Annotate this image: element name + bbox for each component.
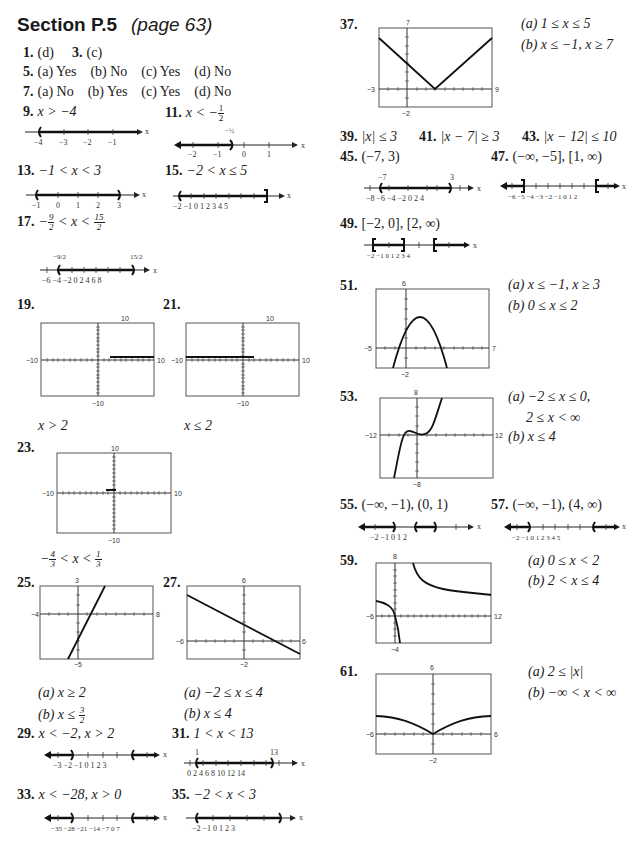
svg-text:−2: −2 — [402, 110, 410, 117]
svg-text:−1: −1 — [108, 138, 117, 147]
svg-text:x: x — [287, 191, 291, 200]
svg-text:x: x — [145, 127, 149, 136]
svg-text:x: x — [477, 522, 481, 531]
svg-text:−2: −2 — [188, 150, 197, 159]
svg-text:−1: −1 — [213, 150, 222, 159]
answer-61b: (b) −∞ < x < ∞ — [528, 685, 616, 701]
svg-text:−10: −10 — [42, 490, 54, 497]
section-name: Section P.5 — [17, 14, 117, 35]
svg-text:6: 6 — [402, 280, 406, 287]
svg-text:−2 −1 0 1 2 3 4: −2 −1 0 1 2 3 4 — [367, 252, 410, 260]
svg-text:9: 9 — [495, 86, 499, 93]
answer-45: 45.(−7, 3) — [340, 149, 400, 165]
svg-text:−5: −5 — [74, 661, 82, 668]
number-line-55: x −2 −1 0 1 2 — [358, 519, 488, 543]
answer-27b: (b) x ≤ 4 — [184, 706, 232, 722]
svg-text:x: x — [301, 141, 305, 150]
number-line-57: x −2 −1 0 1 2 3 4 5 — [504, 519, 627, 543]
answer-55: 55.(−∞, −1), (0, 1) — [340, 497, 448, 513]
svg-text:10: 10 — [111, 445, 119, 452]
graph-23: 10 −10 10 −10 — [44, 445, 184, 545]
svg-text:−6 −5 −4 −3 −2 −1 0 1 2: −6 −5 −4 −3 −2 −1 0 1 2 — [508, 193, 578, 201]
number-line-11: −½ x −2−101 — [172, 125, 307, 159]
svg-text:−4: −4 — [31, 611, 39, 618]
svg-text:−½: −½ — [225, 127, 234, 135]
svg-text:−8 −6 −4 −2 0 2: −8 −6 −4 −2 0 2 4 — [366, 194, 424, 203]
svg-text:−10: −10 — [26, 357, 38, 364]
answer-27a: (a) −2 ≤ x ≤ 4 — [184, 685, 263, 701]
svg-text:10: 10 — [121, 315, 129, 322]
number-line-15: x −2 −1 0 1 2 3 4 5 — [173, 188, 303, 210]
answer-53a: (a) −2 ≤ x ≤ 0, — [508, 389, 590, 405]
svg-text:8: 8 — [393, 553, 397, 560]
answer-51a: (a) x ≤ −1, x ≥ 3 — [508, 277, 600, 293]
caption-19: x > 2 — [38, 418, 68, 434]
answer-5: 5.(a) Yes(b) No(c) Yes(d) No — [23, 64, 231, 80]
svg-text:0 2 4 6 8 10 12 14: 0 2 4 6 8 10 12 14 — [187, 769, 245, 778]
answer-53a-cont: 2 ≤ x < ∞ — [526, 410, 580, 426]
svg-text:3: 3 — [117, 201, 121, 210]
svg-text:1: 1 — [76, 201, 80, 210]
answer-29: 29.x < −2, x > 2 — [17, 726, 114, 742]
answer-9: 9.x > −4 — [23, 104, 77, 120]
number-line-29: x −3 −2 −1 0 1 2 3 — [44, 748, 174, 770]
svg-text:10: 10 — [302, 357, 310, 364]
svg-text:6: 6 — [302, 638, 306, 645]
answer-35: 35.−2 < x < 3 — [172, 787, 256, 803]
svg-text:10: 10 — [174, 490, 182, 497]
svg-text:x: x — [477, 184, 481, 193]
svg-text:−2 −1 0: −2 −1 0 1 2 — [370, 533, 407, 542]
answer-37: 37. — [340, 17, 362, 33]
answer-51: 51. — [340, 278, 362, 294]
answer-49: 49.[−2, 0], [2, ∞) — [340, 216, 440, 232]
answer-1: 1.(d) — [23, 45, 54, 61]
svg-text:x: x — [622, 522, 626, 531]
answer-19: 19. — [17, 297, 39, 313]
svg-text:15/2: 15/2 — [130, 253, 143, 261]
svg-text:−4: −4 — [391, 646, 399, 653]
number-line-9: x −4−3−2−1 — [25, 125, 155, 147]
svg-text:−6: −6 — [366, 613, 374, 620]
svg-text:−6 −4 −2 0 2 4 6 8: −6 −4 −2 0 2 4 6 8 — [42, 276, 102, 285]
number-line-31: 113 x 0 2 4 6 8 10 12 14 — [184, 747, 309, 783]
svg-text:6: 6 — [494, 731, 498, 738]
number-line-33: x −35 −28 −21 −14 −7 0 7 — [44, 810, 174, 834]
svg-text:−5: −5 — [364, 345, 372, 352]
answer-11: 11.x < −12 — [165, 104, 224, 123]
caption-23: −43 < x < 13 — [40, 550, 102, 569]
number-line-47: x −6 −5 −4 −3 −2 −1 0 1 2 — [500, 178, 627, 202]
svg-text:2: 2 — [96, 201, 100, 210]
svg-text:10: 10 — [157, 357, 165, 364]
section-title: Section P.5(page 63) — [17, 14, 212, 36]
answer-61: 61. — [340, 664, 362, 680]
answer-21: 21. — [163, 297, 185, 313]
svg-text:−6: −6 — [366, 731, 374, 738]
svg-text:1: 1 — [267, 150, 271, 159]
svg-text:0: 0 — [56, 201, 60, 210]
graph-19: 10 −10 10 −10 — [28, 315, 163, 410]
answer-59b: (b) 2 < x ≤ 4 — [528, 573, 599, 589]
graph-61: 6 −6 6 −2 — [363, 664, 503, 764]
svg-text:−6: −6 — [176, 638, 184, 645]
svg-text:x: x — [163, 813, 167, 822]
graph-21: 10 −10 10 −10 — [173, 315, 308, 410]
svg-text:x: x — [473, 241, 477, 250]
svg-text:x: x — [299, 813, 303, 822]
number-line-13: x −10123 — [26, 188, 156, 210]
svg-text:x: x — [622, 182, 626, 191]
answer-23: 23. — [17, 440, 39, 456]
svg-text:−2: −2 — [83, 138, 92, 147]
svg-text:−1: −1 — [32, 201, 41, 210]
svg-text:−10: −10 — [171, 357, 183, 364]
answer-15: 15.−2 < x ≤ 5 — [165, 163, 247, 179]
svg-text:−2: −2 — [429, 757, 437, 764]
answer-57: 57.(−∞, −1), (4, ∞) — [491, 497, 602, 513]
number-line-49: x −2 −1 0 1 2 3 4 — [364, 237, 489, 261]
svg-text:−3: −3 — [59, 138, 68, 147]
svg-text:13: 13 — [270, 748, 278, 757]
svg-text:−10: −10 — [237, 400, 249, 407]
answer-39: 39.|x| ≤ 3 — [340, 129, 397, 145]
svg-text:1: 1 — [195, 748, 199, 757]
answer-13: 13.−1 < x < 3 — [17, 163, 101, 179]
svg-text:−2 −1 0 1 2: −2 −1 0 1 2 3 — [192, 824, 235, 833]
